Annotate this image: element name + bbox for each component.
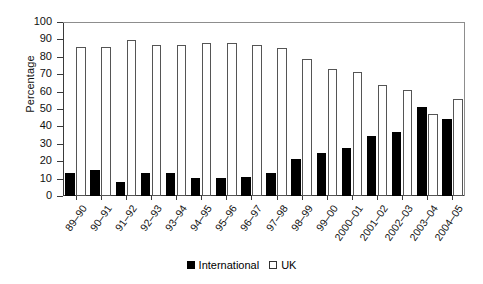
bar-international bbox=[216, 178, 226, 196]
bar-international bbox=[241, 177, 251, 196]
bar-group bbox=[342, 22, 363, 196]
y-axis-tick-label: 50 bbox=[12, 103, 52, 114]
bar-international bbox=[417, 107, 427, 196]
bar-uk bbox=[227, 43, 237, 196]
legend-label: International bbox=[199, 259, 260, 271]
y-axis-tick-label: 20 bbox=[12, 155, 52, 166]
bar-uk bbox=[353, 72, 363, 196]
bar-uk bbox=[252, 45, 262, 196]
bar-group bbox=[141, 22, 162, 196]
legend-swatch-icon bbox=[187, 261, 195, 269]
x-axis-tick bbox=[226, 196, 227, 200]
bar-international bbox=[392, 132, 402, 196]
chart-legend: InternationalUK bbox=[0, 259, 483, 271]
bar-group bbox=[392, 22, 413, 196]
bar-uk bbox=[328, 69, 338, 196]
x-axis-tick bbox=[402, 196, 403, 200]
bars-layer bbox=[63, 22, 465, 196]
bar-group bbox=[291, 22, 312, 196]
x-axis-tick bbox=[251, 196, 252, 200]
x-axis-tick bbox=[176, 196, 177, 200]
x-axis-tick bbox=[126, 196, 127, 200]
x-axis-tick bbox=[327, 196, 328, 200]
y-axis-tick-label: 60 bbox=[12, 86, 52, 97]
bar-uk bbox=[177, 45, 187, 196]
x-axis-tick bbox=[76, 196, 77, 200]
bar-group bbox=[266, 22, 287, 196]
x-axis-tick bbox=[352, 196, 353, 200]
bar-international bbox=[442, 119, 452, 196]
x-axis-tick bbox=[302, 196, 303, 200]
bar-group bbox=[367, 22, 388, 196]
bar-group bbox=[317, 22, 338, 196]
bar-international bbox=[367, 136, 377, 196]
x-axis-tick bbox=[377, 196, 378, 200]
x-axis-tick bbox=[277, 196, 278, 200]
bar-uk bbox=[378, 85, 388, 196]
y-axis-tick-label: 90 bbox=[12, 33, 52, 44]
x-axis-tick bbox=[452, 196, 453, 200]
bar-uk bbox=[428, 114, 438, 196]
bar-international bbox=[266, 173, 276, 196]
bar-uk bbox=[302, 59, 312, 196]
y-axis-tick-label: 30 bbox=[12, 138, 52, 149]
x-axis-tick bbox=[427, 196, 428, 200]
bar-uk bbox=[453, 99, 463, 196]
bar-group bbox=[90, 22, 111, 196]
bar-international bbox=[141, 173, 151, 196]
y-axis-tick-label: 70 bbox=[12, 68, 52, 79]
bar-group bbox=[116, 22, 137, 196]
bar-group bbox=[241, 22, 262, 196]
y-axis-tick-label: 0 bbox=[12, 190, 52, 201]
bar-uk bbox=[76, 47, 86, 196]
bar-uk bbox=[152, 45, 162, 196]
legend-item: UK bbox=[269, 259, 296, 271]
legend-label: UK bbox=[281, 259, 296, 271]
x-axis-tick bbox=[151, 196, 152, 200]
bar-uk bbox=[101, 47, 111, 196]
y-axis-tick-label: 10 bbox=[12, 173, 52, 184]
x-axis-tick bbox=[101, 196, 102, 200]
bar-international bbox=[291, 159, 301, 196]
bar-international bbox=[90, 170, 100, 196]
legend-swatch-icon bbox=[269, 261, 277, 269]
y-axis-tick-label: 80 bbox=[12, 51, 52, 62]
bar-uk bbox=[277, 48, 287, 196]
bar-uk bbox=[202, 43, 212, 196]
bar-group bbox=[442, 22, 463, 196]
bar-international bbox=[342, 148, 352, 196]
bar-group bbox=[65, 22, 86, 196]
bar-group bbox=[417, 22, 438, 196]
bar-chart: Percentage 0102030405060708090100 89–909… bbox=[0, 0, 483, 284]
bar-uk bbox=[127, 40, 137, 196]
y-axis-tick-label: 100 bbox=[12, 16, 52, 27]
bar-international bbox=[317, 153, 327, 197]
y-axis-tick-label: 40 bbox=[12, 120, 52, 131]
x-axis-tick bbox=[201, 196, 202, 200]
y-axis-tick bbox=[57, 196, 63, 197]
bar-group bbox=[166, 22, 187, 196]
bar-group bbox=[191, 22, 212, 196]
bar-group bbox=[216, 22, 237, 196]
bar-international bbox=[65, 173, 75, 196]
bar-uk bbox=[403, 90, 413, 196]
bar-international bbox=[191, 178, 201, 196]
bar-international bbox=[116, 182, 126, 196]
bar-international bbox=[166, 173, 176, 196]
legend-item: International bbox=[187, 259, 260, 271]
